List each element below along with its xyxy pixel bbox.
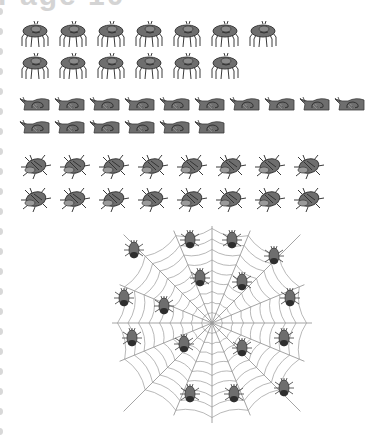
beetle-icon (292, 153, 326, 180)
web-bug-icon (174, 334, 194, 352)
beetle-icon (175, 153, 209, 180)
web-bug-icon (274, 378, 294, 396)
binder-dot (0, 68, 3, 75)
spider-icon (171, 19, 203, 49)
binder-dot (0, 108, 3, 115)
binder-dot (0, 388, 3, 395)
binder-dot (0, 28, 3, 35)
spider-web-illustration (112, 226, 312, 426)
beetle-icon (253, 153, 287, 180)
binder-dot (0, 88, 3, 95)
web-bug-icon (280, 288, 300, 306)
binder-dot (0, 168, 3, 175)
binder-dot (0, 128, 3, 135)
beetle-row-1 (19, 153, 331, 180)
spider-icon (133, 19, 165, 49)
beetle-icon (175, 186, 209, 213)
beetle-row-2 (19, 186, 331, 213)
snail-icon (54, 118, 86, 136)
web-bug-icon (274, 328, 294, 346)
spider-icon (247, 19, 279, 49)
binder-dot (0, 8, 3, 15)
snail-row-1 (19, 95, 368, 113)
binder-dot (0, 328, 3, 335)
binder-dot (0, 188, 3, 195)
spider-icon (57, 19, 89, 49)
spider-icon (19, 51, 51, 81)
spider-icon (209, 51, 241, 81)
snail-icon (159, 118, 191, 136)
beetle-icon (58, 153, 92, 180)
snail-icon (334, 95, 366, 113)
spider-icon (133, 51, 165, 81)
snail-icon (124, 95, 156, 113)
snail-icon (19, 118, 51, 136)
beetle-icon (214, 153, 248, 180)
spider-icon (95, 19, 127, 49)
beetle-icon (19, 153, 53, 180)
beetle-icon (97, 153, 131, 180)
spider-icon (209, 19, 241, 49)
snail-icon (124, 118, 156, 136)
binder-dot (0, 428, 3, 435)
snail-icon (54, 95, 86, 113)
spider-icon (95, 51, 127, 81)
beetle-icon (97, 186, 131, 213)
binder-dot (0, 408, 3, 415)
binder-dot (0, 268, 3, 275)
spider-row-2 (19, 51, 247, 81)
snail-icon (229, 95, 261, 113)
beetle-icon (136, 153, 170, 180)
snail-row-2 (19, 118, 229, 136)
beetle-icon (19, 186, 53, 213)
snail-icon (194, 118, 226, 136)
beetle-icon (292, 186, 326, 213)
binder-dots (0, 0, 4, 437)
binder-dot (0, 368, 3, 375)
snail-icon (194, 95, 226, 113)
page-title: Page 10 (0, 0, 125, 12)
binder-dot (0, 348, 3, 355)
binder-dot (0, 228, 3, 235)
web-bug-icon (124, 240, 144, 258)
snail-icon (264, 95, 296, 113)
web-bug-icon (154, 296, 174, 314)
binder-dot (0, 148, 3, 155)
snail-icon (19, 95, 51, 113)
snail-icon (89, 95, 121, 113)
snail-icon (159, 95, 191, 113)
beetle-icon (58, 186, 92, 213)
beetle-icon (214, 186, 248, 213)
web-bug-icon (114, 288, 134, 306)
binder-dot (0, 208, 3, 215)
spider-icon (57, 51, 89, 81)
binder-dot (0, 48, 3, 55)
spider-icon (171, 51, 203, 81)
web-bug-icon (232, 272, 252, 290)
beetle-icon (136, 186, 170, 213)
binder-dot (0, 248, 3, 255)
binder-dot (0, 308, 3, 315)
binder-dot (0, 288, 3, 295)
snail-icon (299, 95, 331, 113)
beetle-icon (253, 186, 287, 213)
spider-row-1 (19, 19, 285, 49)
snail-icon (89, 118, 121, 136)
web-bug-icon (264, 246, 284, 264)
spider-icon (19, 19, 51, 49)
